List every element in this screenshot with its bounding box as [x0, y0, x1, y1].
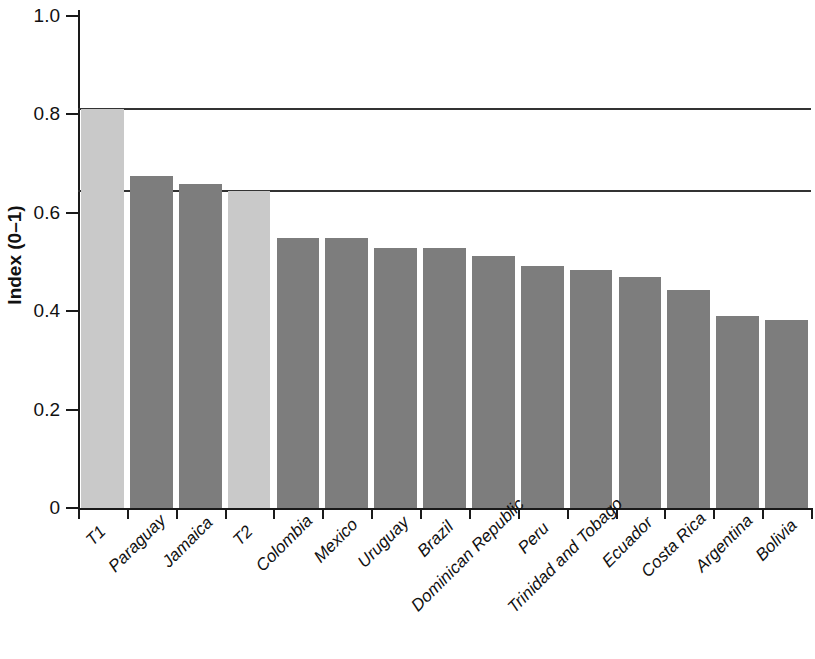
bar: [81, 109, 124, 508]
bar: [765, 320, 808, 508]
y-axis-tick: 0: [66, 507, 78, 509]
x-axis-tick: [713, 508, 715, 519]
y-axis-tick-label: 0.4: [34, 300, 60, 322]
bar: [423, 248, 466, 508]
x-axis-tick: [762, 508, 764, 519]
y-axis-tick: 0.6: [66, 212, 78, 214]
bar: [667, 290, 710, 508]
bar-chart: Index (0–1) 00.20.40.60.81.0 T1ParaguayJ…: [0, 0, 815, 659]
x-axis-tick: [567, 508, 569, 519]
bar: [472, 256, 515, 508]
x-axis-tick: [225, 508, 227, 519]
x-axis-tick: [469, 508, 471, 519]
bar: [228, 191, 271, 508]
y-axis-tick-label: 0.6: [34, 202, 60, 224]
x-axis-label-text: Paraguay: [105, 511, 171, 577]
y-axis-tick-label: 0.2: [34, 399, 60, 421]
bar: [570, 270, 613, 508]
x-axis-label-text: Uruguay: [353, 513, 413, 573]
x-axis-label-text: Brazil: [413, 517, 457, 561]
y-axis-tick: 0.4: [66, 310, 78, 312]
plot-area: 00.20.40.60.81.0: [78, 16, 811, 508]
y-axis-tick-label: 1.0: [34, 5, 60, 27]
y-axis-title: Index (0–1): [0, 0, 30, 510]
bar: [716, 316, 759, 508]
bar: [374, 248, 417, 508]
bar: [130, 176, 173, 508]
bar: [325, 238, 368, 508]
x-axis-tick: [273, 508, 275, 519]
y-axis-tick-label: 0: [49, 497, 60, 519]
y-axis-tick: 1.0: [66, 15, 78, 17]
x-axis-tick: [811, 508, 813, 519]
x-axis-tick: [322, 508, 324, 519]
x-axis-label-text: Bolivia: [752, 516, 802, 566]
y-axis-title-text: Index (0–1): [4, 205, 26, 304]
x-axis-line: [78, 508, 811, 510]
x-axis-label-text: Peru: [514, 519, 554, 559]
bar: [521, 266, 564, 508]
y-axis-tick-label: 0.8: [34, 103, 60, 125]
x-axis-tick: [664, 508, 666, 519]
x-axis-tick: [371, 508, 373, 519]
x-axis-label-text: Colombia: [252, 511, 317, 576]
reference-line-t1: [78, 108, 811, 110]
x-axis-tick: [78, 508, 80, 519]
bar: [179, 184, 222, 508]
bar: [619, 277, 662, 508]
y-axis-tick: 0.2: [66, 409, 78, 411]
x-axis-tick: [176, 508, 178, 519]
y-axis-tick: 0.8: [66, 113, 78, 115]
x-axis-tick: [127, 508, 129, 519]
x-axis-tick: [420, 508, 422, 519]
bar: [277, 238, 320, 508]
y-axis-line: [78, 10, 80, 510]
x-axis-label-text: T1: [83, 522, 111, 550]
x-axis-label-text: T2: [229, 522, 257, 550]
